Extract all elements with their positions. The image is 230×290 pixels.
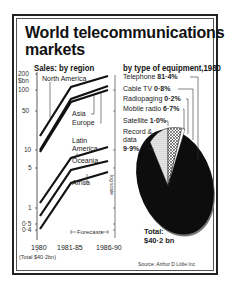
pie-label-record-2: data (123, 136, 137, 143)
label-europe: Europe (72, 119, 95, 127)
pie-label-cable-tv: Cable TV 0·8% (123, 85, 171, 92)
x-label-1980: 1980 (31, 244, 47, 251)
pie-label-mobile-radio: Mobile radio 6·7% (123, 105, 180, 112)
pie-label-telephone: Telephone 81·4% (123, 73, 178, 81)
y-tick-10: 10 (24, 146, 32, 153)
pie-total-label: Total: (144, 227, 164, 236)
label-africa: Africa (72, 179, 90, 186)
pie-label-record-value: 9·9% (123, 145, 140, 152)
y-tick-1: 1 (28, 204, 32, 211)
y-axis: 200 $bn 100 50 10 5 1 0·5 0·4 (18, 70, 37, 240)
log-scale-note: log scale (109, 175, 115, 195)
pie-label-record-1: Record & (123, 128, 153, 135)
y-tick-50: 50 (22, 107, 30, 114)
x-label-1981-85: 1981-85 (57, 244, 83, 251)
y-tick-100: 100 (18, 86, 29, 93)
label-latin-2: America (72, 145, 98, 152)
label-oceania: Oceania (72, 157, 98, 164)
label-north-america: North America (42, 75, 86, 82)
pie-total-value: $40·2 bn (144, 236, 175, 245)
y-tick-200: 200 (18, 70, 29, 77)
pie-label-radiopaging: Radiopaging 0·2% (123, 95, 181, 103)
label-asia: Asia (72, 110, 86, 117)
source-note: Source: Arthur D Little Inc (138, 261, 195, 267)
pie-chart (123, 119, 228, 247)
y-axis-unit: $bn (18, 77, 29, 84)
chart-canvas: 200 $bn 100 50 10 5 1 0·5 0·4 log scale (0, 0, 230, 290)
pie-label-satellite: Satellite 1·0% (123, 117, 167, 124)
forecasts-label: Forecasts (77, 229, 103, 235)
y-tick-0-4: 0·4 (22, 226, 32, 233)
y-tick-5: 5 (28, 164, 32, 171)
right-axis: log scale (109, 75, 115, 238)
label-latin-1: Latin (72, 137, 87, 144)
x-note: (Total $40·2bn) (19, 254, 56, 260)
x-label-1986-90: 1986-90 (96, 244, 122, 251)
